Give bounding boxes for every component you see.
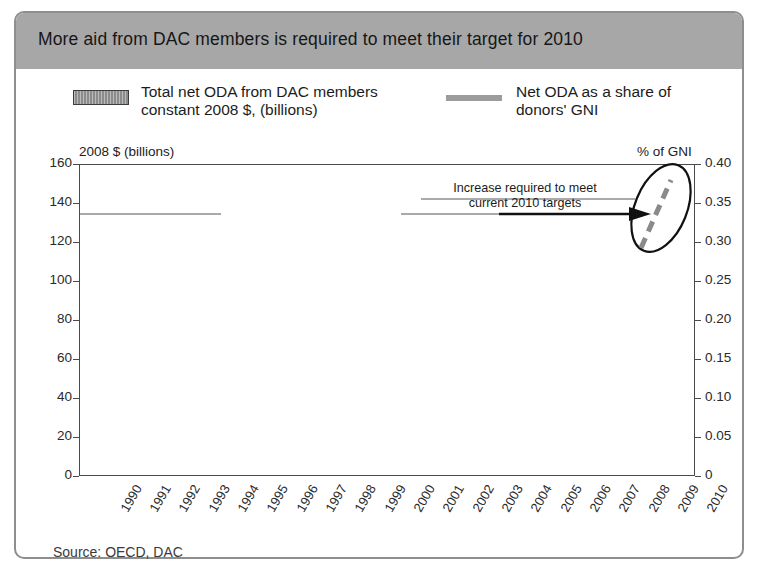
- chart-title-bar: More aid from DAC members is required to…: [16, 13, 742, 69]
- x-tick-label-2004: 2004: [528, 482, 555, 515]
- y2-tick-mark: [695, 242, 701, 243]
- x-tick-label-1991: 1991: [146, 482, 173, 515]
- x-tick-label-2003: 2003: [498, 482, 525, 515]
- x-tick-label-1999: 1999: [381, 482, 408, 515]
- x-tick-label-1994: 1994: [234, 482, 261, 515]
- y2-tick-mark: [695, 359, 701, 360]
- y2-tick-label: 0: [705, 467, 753, 482]
- y-tick-label: 0: [24, 467, 72, 482]
- x-tick-label-2006: 2006: [586, 482, 613, 515]
- y2-tick-label: 0.40: [705, 155, 753, 170]
- x-tick-label-2001: 2001: [440, 482, 467, 515]
- y2-tick-label: 0.20: [705, 311, 753, 326]
- y-tick-label: 40: [24, 389, 72, 404]
- legend-label-line: Net ODA as a share of donors' GNI: [516, 83, 671, 119]
- x-tick-label-1996: 1996: [293, 482, 320, 515]
- y2-tick-mark: [695, 164, 701, 165]
- x-tick-label-2005: 2005: [557, 482, 584, 515]
- y2-tick-mark: [695, 281, 701, 282]
- legend-swatch-bars: [73, 90, 129, 105]
- y2-tick-label: 0.35: [705, 194, 753, 209]
- chart-figure: More aid from DAC members is required to…: [14, 11, 744, 559]
- x-tick-label-2009: 2009: [674, 482, 701, 515]
- y-tick-mark: [73, 476, 79, 477]
- y2-tick-mark: [695, 398, 701, 399]
- x-tick-label-2000: 2000: [410, 482, 437, 515]
- page-title: More aid from DAC members is required to…: [38, 29, 583, 50]
- x-tick-label-2002: 2002: [469, 482, 496, 515]
- x-tick-label-1995: 1995: [264, 482, 291, 515]
- x-tick-label-1990: 1990: [117, 482, 144, 515]
- y-tick-label: 20: [24, 428, 72, 443]
- y-tick-label: 120: [24, 233, 72, 248]
- y2-tick-label: 0.25: [705, 272, 753, 287]
- y2-tick-label: 0.15: [705, 350, 753, 365]
- y2-tick-mark: [695, 437, 701, 438]
- legend-label-bars: Total net ODA from DAC members constant …: [141, 83, 378, 119]
- y2-tick-mark: [695, 203, 701, 204]
- y2-tick-label: 0.30: [705, 233, 753, 248]
- y-tick-label: 100: [24, 272, 72, 287]
- x-tick-label-2007: 2007: [616, 482, 643, 515]
- legend-swatch-line: [446, 95, 502, 101]
- y-tick-label: 160: [24, 155, 72, 170]
- x-tick-label-2008: 2008: [645, 482, 672, 515]
- x-tick-label-1992: 1992: [176, 482, 203, 515]
- x-tick-label-1998: 1998: [352, 482, 379, 515]
- y2-tick-mark: [695, 320, 701, 321]
- annotation-label: Increase required to meet current 2010 t…: [420, 181, 630, 211]
- source-note: Source: OECD, DAC: [53, 544, 183, 560]
- left-axis-caption: 2008 $ (billions): [79, 144, 174, 159]
- right-axis-caption: % of GNI: [637, 144, 692, 159]
- chart-legend: Total net ODA from DAC members constant …: [16, 73, 742, 135]
- y2-tick-label: 0.05: [705, 428, 753, 443]
- x-tick-label-2010: 2010: [704, 482, 731, 515]
- y-tick-label: 60: [24, 350, 72, 365]
- x-tick-label-1997: 1997: [322, 482, 349, 515]
- y2-tick-label: 0.10: [705, 389, 753, 404]
- y-tick-label: 80: [24, 311, 72, 326]
- y2-tick-mark: [695, 476, 701, 477]
- y-tick-label: 140: [24, 194, 72, 209]
- x-tick-label-1993: 1993: [205, 482, 232, 515]
